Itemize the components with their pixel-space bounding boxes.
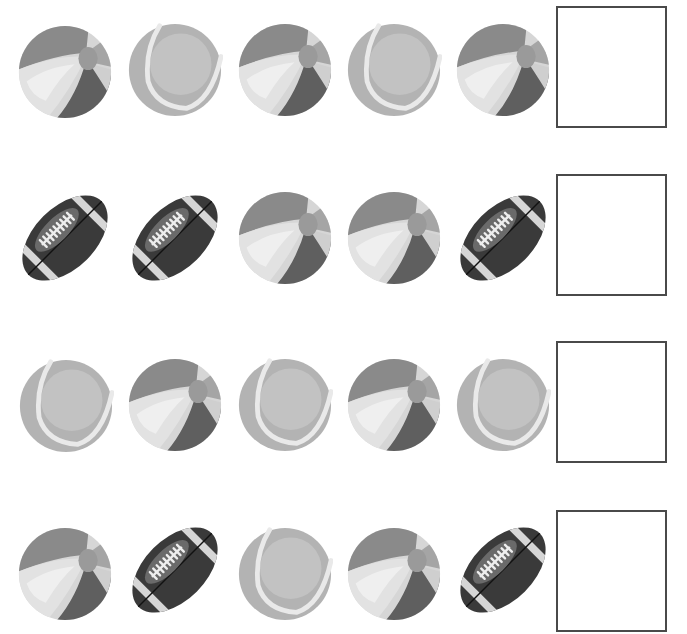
football-icon — [455, 522, 551, 618]
answer-box-2[interactable] — [556, 174, 667, 296]
tennis-ball-icon — [18, 358, 114, 454]
football-icon — [455, 190, 551, 286]
beach-ball-icon — [127, 357, 223, 453]
tennis-ball-icon — [127, 22, 223, 118]
tennis-ball-icon — [237, 526, 333, 622]
beach-ball-icon — [455, 22, 551, 118]
beach-ball-icon — [237, 22, 333, 118]
beach-ball-icon — [346, 190, 442, 286]
answer-box-1[interactable] — [556, 6, 667, 128]
beach-ball-icon — [17, 24, 113, 120]
football-icon — [17, 190, 113, 286]
pattern-row-1 — [0, 0, 687, 130]
beach-ball-icon — [346, 357, 442, 453]
answer-box-3[interactable] — [556, 341, 667, 463]
answer-box-4[interactable] — [556, 510, 667, 632]
pattern-row-2 — [0, 168, 687, 298]
tennis-ball-icon — [237, 357, 333, 453]
beach-ball-icon — [346, 526, 442, 622]
football-icon — [127, 522, 223, 618]
tennis-ball-icon — [455, 357, 551, 453]
football-icon — [127, 190, 223, 286]
beach-ball-icon — [237, 190, 333, 286]
pattern-row-4 — [0, 504, 687, 634]
beach-ball-icon — [17, 526, 113, 622]
tennis-ball-icon — [346, 22, 442, 118]
pattern-row-3 — [0, 335, 687, 465]
